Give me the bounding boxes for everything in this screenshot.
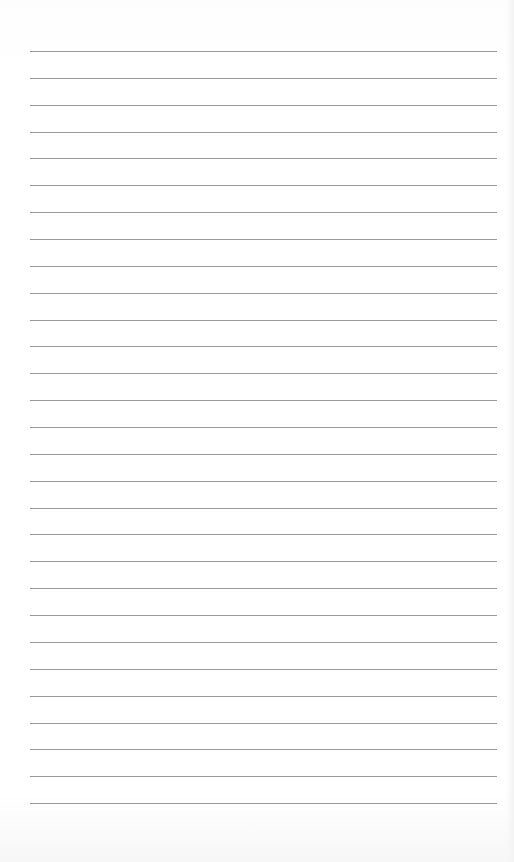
ruled-line	[30, 185, 497, 186]
ruled-line	[30, 427, 497, 428]
ruled-line	[30, 642, 497, 643]
ruled-line	[30, 320, 497, 321]
ruled-line	[30, 534, 497, 535]
ruled-line	[30, 561, 497, 562]
ruled-line	[30, 669, 497, 670]
ruled-line	[30, 400, 497, 401]
ruled-line	[30, 78, 497, 79]
ruled-line	[30, 723, 497, 724]
ruled-line	[30, 346, 497, 347]
ruled-line	[30, 373, 497, 374]
ruled-line	[30, 212, 497, 213]
ruled-line	[30, 239, 497, 240]
ruled-line	[30, 293, 497, 294]
ruled-line	[30, 158, 497, 159]
ruled-line	[30, 776, 497, 777]
ruled-line	[30, 615, 497, 616]
ruled-line	[30, 696, 497, 697]
ruled-line	[30, 132, 497, 133]
lined-paper-page	[0, 0, 514, 862]
ruled-line	[30, 749, 497, 750]
ruled-line	[30, 266, 497, 267]
ruled-line	[30, 51, 497, 52]
page-edge-shadow	[506, 0, 514, 862]
ruled-line	[30, 481, 497, 482]
ruled-line	[30, 803, 497, 804]
ruled-line	[30, 588, 497, 589]
ruled-line	[30, 454, 497, 455]
ruled-line	[30, 508, 497, 509]
ruled-line	[30, 105, 497, 106]
